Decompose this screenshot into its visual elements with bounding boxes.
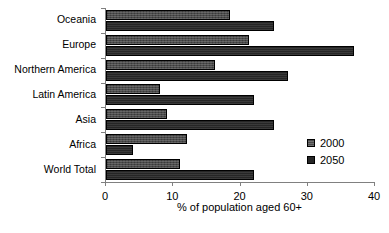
legend-swatch-icon-2000: [307, 139, 315, 147]
x-axis-tick: [240, 182, 241, 186]
category-label: World Total: [0, 164, 96, 175]
bar-2050: [106, 21, 274, 31]
y-axis-tick: [101, 33, 105, 34]
y-axis-tick: [101, 83, 105, 84]
legend-label-2000: 2000: [320, 137, 344, 149]
bar-2050: [106, 145, 133, 155]
legend-item-2000: 2000: [307, 134, 344, 151]
legend-label-2050: 2050: [320, 154, 344, 166]
bar-group: [106, 8, 375, 33]
y-axis-tick: [101, 107, 105, 108]
y-axis-tick: [101, 132, 105, 133]
bar-2050: [106, 95, 254, 105]
x-axis-tick: [307, 182, 308, 186]
bar-group: [106, 33, 375, 58]
y-axis-tick: [101, 157, 105, 158]
category-label: Northern America: [0, 64, 96, 75]
bar-chart: OceaniaEuropeNorthern AmericaLatin Ameri…: [0, 0, 389, 233]
bar-2000: [106, 134, 187, 144]
legend-swatch-icon-2050: [307, 156, 315, 164]
bar-2000: [106, 10, 230, 20]
y-axis-tick: [101, 58, 105, 59]
x-axis-tick: [374, 182, 375, 186]
chart-legend: 2000 2050: [307, 134, 344, 168]
category-label: Oceania: [0, 14, 96, 25]
bar-2050: [106, 170, 254, 180]
x-axis-title: % of population aged 60+: [105, 201, 374, 214]
bar-group: [106, 58, 375, 83]
bar-2000: [106, 109, 167, 119]
category-label: Africa: [0, 139, 96, 150]
bar-group: [106, 107, 375, 132]
bar-2000: [106, 60, 215, 70]
bar-2050: [106, 120, 274, 130]
category-axis-labels: OceaniaEuropeNorthern AmericaLatin Ameri…: [0, 8, 100, 182]
x-axis-tick: [105, 182, 106, 186]
x-axis-tick: [172, 182, 173, 186]
category-label: Asia: [0, 114, 96, 125]
legend-item-2050: 2050: [307, 151, 344, 168]
bar-group: [106, 83, 375, 108]
bar-2050: [106, 71, 288, 81]
bar-2000: [106, 159, 180, 169]
bar-2050: [106, 46, 354, 56]
category-label: Europe: [0, 39, 96, 50]
bar-2000: [106, 35, 249, 45]
bar-2000: [106, 84, 160, 94]
category-label: Latin America: [0, 89, 96, 100]
y-axis-tick: [101, 8, 105, 9]
